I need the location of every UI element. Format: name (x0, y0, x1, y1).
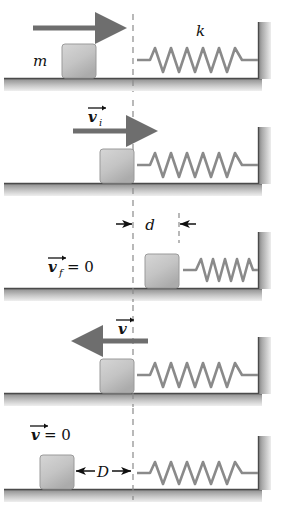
block-mass (100, 149, 134, 183)
diagram-canvas: m k v i d (0, 0, 299, 512)
velocity-initial-label: v (88, 108, 97, 126)
velocity-final-label-group: v f = 0 (48, 256, 94, 278)
wall (258, 232, 271, 289)
spring-constant-label: k (196, 22, 205, 40)
block-mass (100, 359, 134, 393)
physics-diagram-figure: m k v i d (0, 0, 299, 512)
velocity-rest-label: v (31, 426, 40, 444)
velocity-final-value: = 0 (67, 258, 94, 276)
velocity-return-label: v (118, 320, 127, 338)
velocity-rest-value: = 0 (44, 426, 71, 444)
wall (258, 22, 271, 79)
wall (258, 436, 271, 490)
wall (258, 127, 271, 184)
velocity-initial-subscript: i (99, 117, 102, 128)
block-mass (62, 44, 96, 78)
velocity-rest-label-group: v = 0 (30, 424, 71, 444)
mass-label: m (33, 52, 47, 70)
block-mass (40, 455, 74, 489)
block-mass (145, 254, 179, 288)
velocity-final-label: v (48, 258, 57, 276)
slide-distance-label: D (96, 463, 109, 481)
compression-distance-label: d (145, 216, 155, 234)
wall (258, 337, 271, 394)
